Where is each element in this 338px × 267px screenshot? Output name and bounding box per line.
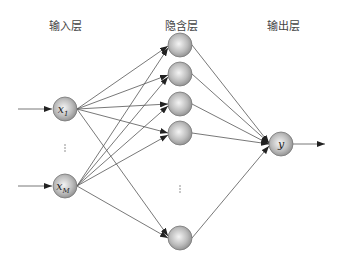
hidden-node — [168, 62, 192, 86]
hidden-node — [168, 33, 192, 57]
network-graph: x1 xM y — [0, 0, 338, 267]
neural-network-diagram: 输入层 隐含层 输出层 — [0, 0, 338, 267]
hidden-node — [168, 92, 192, 116]
svg-text:y: y — [277, 138, 285, 151]
hidden-node — [168, 226, 192, 250]
hidden-node — [168, 121, 192, 145]
